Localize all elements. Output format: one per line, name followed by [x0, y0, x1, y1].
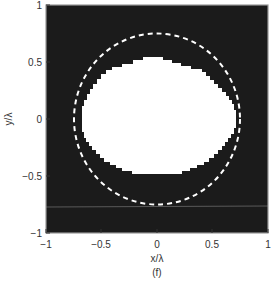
x-tick-0.5: 0.5 [205, 239, 219, 250]
figure: 1 0.5 0 −0.5 −1 −1 −0.5 0 0.5 1 x/λ y/λ … [0, 0, 273, 281]
panel-label: (f) [152, 267, 161, 278]
y-tick-0: 0 [36, 114, 42, 125]
y-tick-1: 1 [36, 0, 42, 11]
x-axis-label: x/λ [151, 253, 164, 264]
x-tick-neg1: −1 [40, 239, 52, 250]
x-tick-neg0.5: −0.5 [91, 239, 111, 250]
y-tick-neg1: −1 [31, 228, 43, 239]
y-axis-label: y/λ [3, 113, 14, 126]
x-tick-1: 1 [265, 239, 271, 250]
y-tick-0.5: 0.5 [28, 57, 42, 68]
y-tick-neg0.5: −0.5 [22, 171, 42, 182]
x-tick-0: 0 [154, 239, 160, 250]
